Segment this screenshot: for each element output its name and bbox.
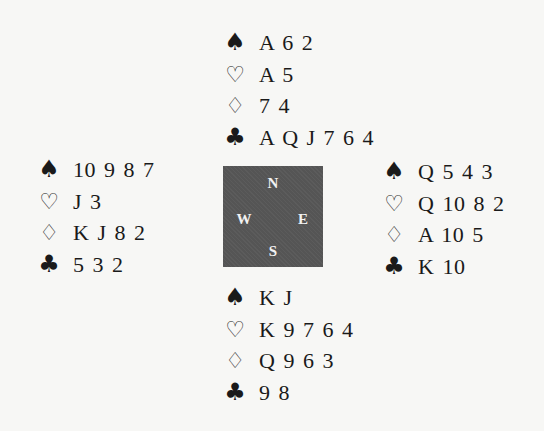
east-clubs-cards: K 10 xyxy=(418,251,465,283)
west-clubs-cards: 5 3 2 xyxy=(73,249,124,281)
west-diamonds-cards: K J 8 2 xyxy=(73,217,145,249)
spade-icon: ♠ xyxy=(224,27,246,59)
spade-icon: ♠ xyxy=(38,154,60,186)
north-hearts-cards: A 5 xyxy=(259,59,294,91)
club-icon: ♣ xyxy=(38,249,60,281)
east-hearts-cards: Q 10 8 2 xyxy=(418,188,504,220)
east-spades-cards: Q 5 4 3 xyxy=(418,156,493,188)
club-icon: ♣ xyxy=(383,251,405,283)
diamond-icon: ♢ xyxy=(224,90,246,122)
north-spades-cards: A 6 2 xyxy=(259,27,313,59)
compass-table: N W E S xyxy=(223,166,323,267)
heart-icon: ♡ xyxy=(38,186,60,218)
club-icon: ♣ xyxy=(224,122,246,154)
south-clubs-cards: 9 8 xyxy=(259,377,290,409)
south-hearts-cards: K 9 7 6 4 xyxy=(259,314,353,346)
compass-north-label: N xyxy=(263,174,283,192)
west-spades-cards: 10 9 8 7 xyxy=(73,154,155,186)
east-diamonds-cards: A 10 5 xyxy=(418,219,484,251)
north-diamonds-cards: 7 4 xyxy=(259,90,290,122)
south-spades-cards: K J xyxy=(259,282,292,314)
compass-east-label: E xyxy=(293,210,313,228)
heart-icon: ♡ xyxy=(224,314,246,346)
club-icon: ♣ xyxy=(224,377,246,409)
diamond-icon: ♢ xyxy=(383,219,405,251)
compass-west-label: W xyxy=(234,210,254,228)
diamond-icon: ♢ xyxy=(38,217,60,249)
compass-south-label: S xyxy=(263,242,283,260)
heart-icon: ♡ xyxy=(383,188,405,220)
north-clubs-cards: A Q J 7 6 4 xyxy=(259,122,374,154)
spade-icon: ♠ xyxy=(224,282,246,314)
west-hearts-cards: J 3 xyxy=(73,186,102,218)
south-diamonds-cards: Q 9 6 3 xyxy=(259,345,334,377)
diamond-icon: ♢ xyxy=(224,345,246,377)
heart-icon: ♡ xyxy=(224,59,246,91)
spade-icon: ♠ xyxy=(383,156,405,188)
